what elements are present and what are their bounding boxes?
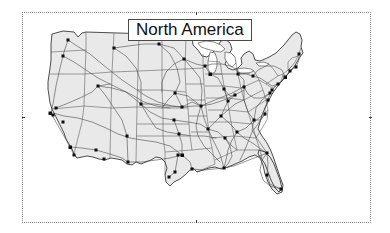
- city-marker: [69, 146, 73, 150]
- city-marker: [62, 121, 65, 124]
- city-marker: [181, 106, 184, 109]
- city-marker: [266, 152, 269, 155]
- city-marker: [126, 135, 129, 138]
- city-marker: [181, 154, 185, 158]
- city-marker: [174, 92, 177, 95]
- city-marker: [127, 161, 130, 164]
- city-marker: [55, 107, 58, 110]
- city-marker: [191, 168, 194, 171]
- city-marker: [284, 76, 288, 80]
- city-marker: [223, 167, 226, 170]
- city-marker: [227, 100, 230, 103]
- city-marker: [266, 174, 269, 177]
- city-marker: [183, 58, 186, 61]
- city-marker: [253, 119, 256, 122]
- lake-huron: [225, 52, 236, 67]
- city-marker: [204, 65, 207, 68]
- city-marker: [140, 103, 143, 106]
- city-marker: [49, 112, 53, 116]
- city-marker: [97, 85, 100, 88]
- city-marker: [252, 75, 255, 78]
- city-marker: [280, 188, 283, 191]
- page-title: North America: [136, 20, 244, 39]
- screenshot-canvas: North America: [0, 0, 390, 233]
- city-marker: [200, 105, 203, 108]
- city-marker: [289, 70, 292, 73]
- lake-michigan: [208, 52, 217, 74]
- city-marker: [277, 83, 280, 86]
- city-marker: [177, 154, 180, 157]
- city-marker: [168, 176, 171, 179]
- city-marker: [223, 88, 226, 91]
- city-marker: [103, 158, 106, 161]
- map-svg: [22, 12, 371, 223]
- city-marker: [158, 43, 161, 46]
- city-marker: [173, 119, 176, 122]
- city-marker: [269, 92, 272, 95]
- city-marker: [295, 66, 298, 69]
- city-marker: [113, 47, 116, 50]
- city-marker: [298, 53, 301, 56]
- city-marker: [52, 114, 55, 117]
- city-marker: [73, 154, 76, 157]
- city-marker: [234, 94, 237, 97]
- city-marker: [178, 133, 181, 136]
- city-marker: [267, 99, 270, 102]
- city-marker: [62, 55, 65, 58]
- city-marker: [237, 73, 240, 76]
- city-marker: [209, 73, 213, 77]
- united-states-map: [22, 12, 371, 223]
- city-marker: [67, 39, 70, 42]
- city-marker: [264, 113, 267, 116]
- city-marker: [271, 89, 274, 92]
- city-marker: [95, 149, 98, 152]
- city-marker: [220, 115, 223, 118]
- city-marker: [236, 131, 239, 134]
- map-title-box: North America: [128, 19, 252, 41]
- city-marker: [207, 128, 210, 131]
- city-marker: [224, 137, 227, 140]
- city-marker: [243, 86, 246, 89]
- city-marker: [174, 171, 177, 174]
